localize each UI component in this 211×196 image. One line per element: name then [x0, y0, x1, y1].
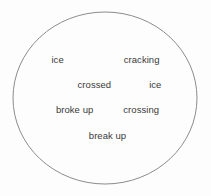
word-item: broke up: [56, 104, 93, 116]
word-list: ice cracking crossed ice broke up crossi…: [0, 0, 211, 196]
word-item: crossing: [123, 104, 159, 116]
word-row: crossed ice: [0, 79, 211, 91]
word-row: ice cracking: [0, 54, 211, 66]
word-row: broke up crossing: [0, 104, 211, 116]
word-row: break up: [0, 130, 211, 142]
word-item: ice: [149, 79, 161, 91]
word-item: ice: [51, 54, 63, 66]
word-bubble-diagram: ice cracking crossed ice broke up crossi…: [0, 0, 211, 196]
word-item: break up: [89, 130, 126, 142]
word-item: cracking: [124, 54, 160, 66]
word-item: crossed: [78, 79, 112, 91]
